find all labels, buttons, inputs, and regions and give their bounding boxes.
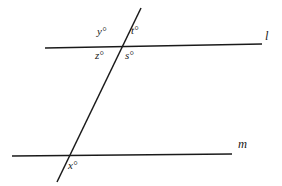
line-label-l: l [265,30,268,43]
angle-label-z: z° [95,50,104,61]
angle-label-s: s° [125,50,134,61]
angle-label-t: t° [131,25,138,36]
geometry-figure: y° t° z° s° x° l m [0,0,282,186]
angle-label-x: x° [68,160,77,171]
line-m [12,154,232,156]
line-label-m: m [238,138,247,151]
angle-label-y: y° [97,26,106,37]
line-l [45,44,262,48]
geometry-canvas [0,0,282,186]
